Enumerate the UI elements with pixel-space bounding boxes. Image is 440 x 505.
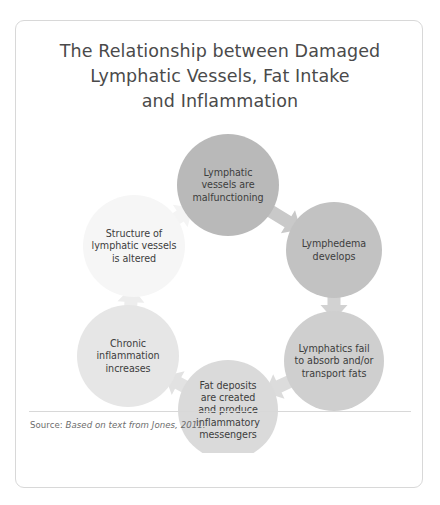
node-lymphedema-develops: Lymphedemadevelops xyxy=(286,202,382,298)
node-label-4: Fat depositsare createdand produceinflam… xyxy=(196,380,260,441)
node-lymphatics-fail-absorb-transport-fats: Lymphatics failto absorb and/ortransport… xyxy=(284,311,384,411)
source-reference: Based on text from Jones, 2011. xyxy=(66,420,206,430)
node-chronic-inflammation-increases: Chronicinflammationincreases xyxy=(77,305,179,407)
source-note: Source: Based on text from Jones, 2011. xyxy=(30,420,410,430)
node-structure-of-lymphatic-vessels-altered: Structure oflymphatic vesselsis altered xyxy=(83,195,185,297)
node-lymphatic-vessels-malfunctioning: Lymphaticvessels aremalfunctioning xyxy=(177,134,279,236)
source-label: Source: xyxy=(30,420,66,430)
figure-title-line-1: The Relationship between Damaged xyxy=(16,39,424,64)
source-divider xyxy=(29,411,411,412)
cycle-diagram: Lymphaticvessels aremalfunctioningLymphe… xyxy=(16,113,424,453)
diagram-canvas: Lymphaticvessels aremalfunctioningLymphe… xyxy=(16,113,424,453)
node-layer: Lymphaticvessels aremalfunctioningLymphe… xyxy=(77,134,384,453)
node-label-3: Lymphatics failto absorb and/ortransport… xyxy=(295,343,374,379)
figure-card: The Relationship between Damaged Lymphat… xyxy=(15,20,423,488)
node-fat-deposits-inflammatory-messengers: Fat depositsare createdand produceinflam… xyxy=(178,360,278,453)
figure-title: The Relationship between Damaged Lymphat… xyxy=(16,39,424,114)
figure-title-line-3: and Inflammation xyxy=(16,89,424,114)
figure-title-line-2: Lymphatic Vessels, Fat Intake xyxy=(16,64,424,89)
